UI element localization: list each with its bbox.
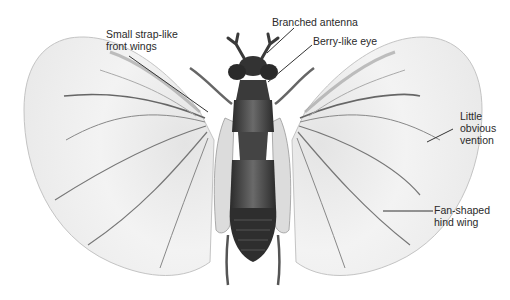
- label-vention-line2: obvious: [460, 122, 496, 134]
- label-front-wings-line1: Small strap-like: [106, 28, 178, 40]
- label-antenna: Branched antenna: [272, 16, 358, 28]
- label-vention-line3: vention: [460, 134, 496, 146]
- label-hind-wing-line2: hind wing: [434, 216, 490, 228]
- leader-antenna: [267, 28, 294, 53]
- insect-body: [228, 34, 278, 262]
- label-eye-line1: Berry-like eye: [313, 35, 377, 47]
- label-front-wings-line2: front wings: [106, 40, 178, 52]
- label-vention-line1: Little: [460, 110, 496, 122]
- insect-illustration: [0, 0, 510, 300]
- label-vention: Little obvious vention: [460, 110, 496, 146]
- insect-diagram: Small strap-like front wings Branched an…: [0, 0, 510, 300]
- label-front-wings: Small strap-like front wings: [106, 28, 178, 52]
- label-hind-wing-line1: Fan-shaped: [434, 204, 490, 216]
- label-eye: Berry-like eye: [313, 35, 377, 47]
- label-antenna-line1: Branched antenna: [272, 16, 358, 28]
- right-hind-wing: [292, 37, 482, 275]
- left-hind-wing: [24, 37, 214, 275]
- label-hind-wing: Fan-shaped hind wing: [434, 204, 490, 228]
